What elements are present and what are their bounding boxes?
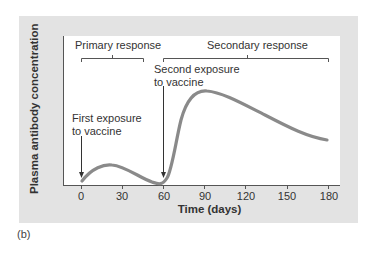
first-exposure-label: First exposure to vaccine: [72, 112, 142, 137]
primary-response-bracket: [82, 55, 144, 62]
x-tick-label: 180: [320, 190, 338, 202]
figure-label: (b): [17, 228, 30, 240]
primary-response-label: Primary response: [75, 39, 161, 52]
antibody-curve-chart: [0, 0, 371, 253]
x-tick-label: 60: [158, 190, 170, 202]
secondary-response-label: Secondary response: [207, 39, 308, 52]
second-exposure-label: Second exposure to vaccine: [154, 63, 240, 88]
x-axis-label: Time (days): [0, 203, 371, 215]
secondary-response-bracket: [164, 55, 329, 62]
first-exposure-arrow: [79, 136, 84, 178]
x-tick-label: 30: [116, 190, 128, 202]
x-tick-label: 0: [78, 190, 84, 202]
y-axis-label: Plasma antibody concentration: [28, 23, 40, 194]
x-tick-label: 150: [278, 190, 296, 202]
x-tick-label: 90: [199, 190, 211, 202]
antibody-curve: [82, 91, 327, 184]
second-exposure-arrow: [161, 86, 166, 178]
x-tick-label: 120: [237, 190, 255, 202]
